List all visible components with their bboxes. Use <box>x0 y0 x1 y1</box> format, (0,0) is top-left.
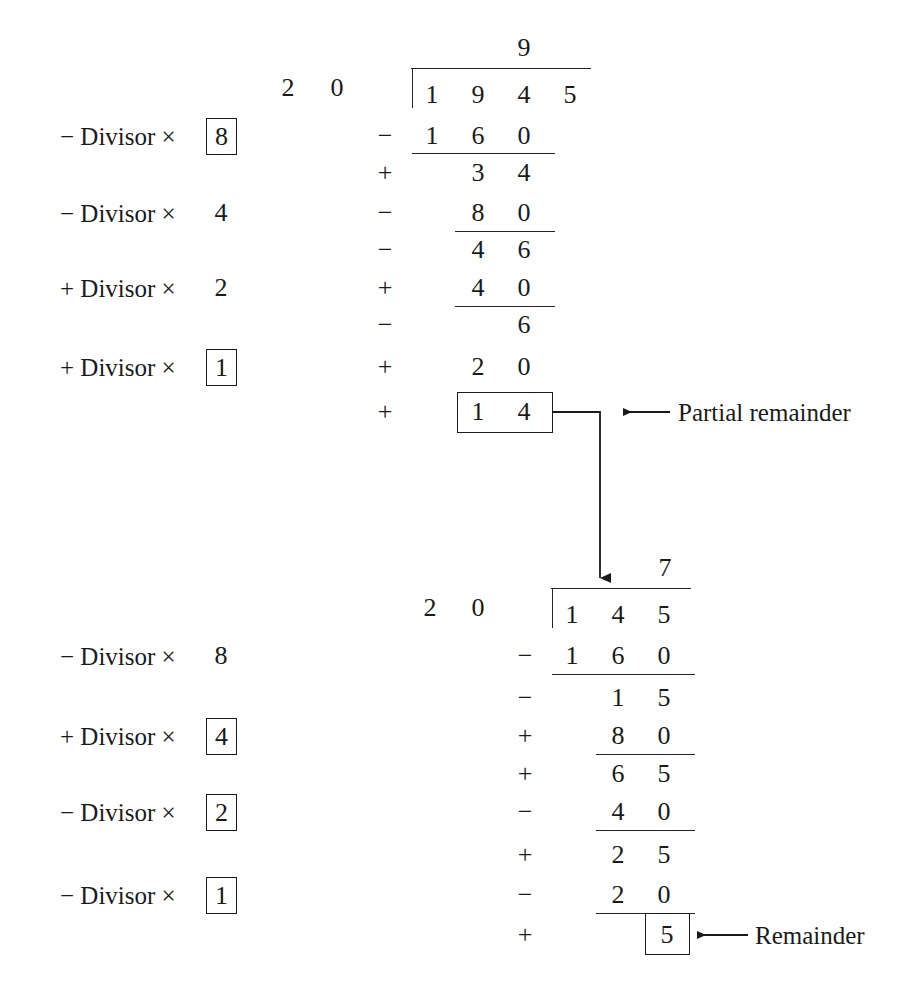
top-label-0-text: Divisor × <box>80 123 175 150</box>
bottom-row-0-sign: − <box>514 643 536 669</box>
bottom-dividend-digit-0: 1 <box>559 602 585 628</box>
bottom-row-2-underline <box>596 754 695 755</box>
top-row-2-digit-2: 0 <box>511 200 537 226</box>
bottom-row-4-sign: − <box>514 799 536 825</box>
top-label-1-sign: − <box>60 200 74 227</box>
top-dividend-digit-0: 1 <box>419 82 445 108</box>
bottom-label-2-multiplier: 2 <box>215 800 228 826</box>
bottom-label-1-multiplier: 4 <box>215 724 228 750</box>
top-row-5-digit-2: 6 <box>511 312 537 338</box>
top-label-0-multiplier: 8 <box>215 124 228 150</box>
top-row-7-digit-1: 1 <box>465 399 491 425</box>
top-row-4-digit-2: 0 <box>511 275 537 301</box>
top-label-3-multiplier-box: 1 <box>206 349 237 386</box>
bottom-row-6-digit-2: 0 <box>651 882 677 908</box>
bottom-divisor-digit-1: 0 <box>465 595 491 621</box>
top-label-2-text: Divisor × <box>80 275 175 302</box>
bottom-label-0-sign: − <box>60 643 74 670</box>
top-label-1: − Divisor × <box>60 201 176 226</box>
top-label-3-sign: + <box>60 354 74 381</box>
bottom-row-0-digit-1: 6 <box>605 643 631 669</box>
bottom-divisor-digit-0: 2 <box>417 595 443 621</box>
bottom-label-3-multiplier: 1 <box>215 883 228 909</box>
bottom-division-bar-vertical <box>552 588 553 628</box>
top-dividend-digit-1: 9 <box>465 82 491 108</box>
top-label-1-text: Divisor × <box>80 200 175 227</box>
top-label-0: − Divisor × <box>60 124 176 149</box>
top-row-4-digit-1: 4 <box>465 275 491 301</box>
bottom-row-1-digit-2: 5 <box>651 685 677 711</box>
bottom-row-1-digit-1: 1 <box>605 685 631 711</box>
bottom-row-1-sign: − <box>514 685 536 711</box>
bottom-row-7-digit-2: 5 <box>654 922 680 948</box>
bottom-label-2: − Divisor × <box>60 800 176 825</box>
bottom-label-2-multiplier-box: 2 <box>206 794 237 831</box>
top-row-1-digit-2: 4 <box>511 160 537 186</box>
top-row-0-sign: − <box>374 123 396 149</box>
top-row-6-sign: + <box>374 354 396 380</box>
bottom-quotient-digit: 7 <box>652 555 678 581</box>
top-row-1-digit-1: 3 <box>465 160 491 186</box>
bottom-row-3-digit-2: 5 <box>651 761 677 787</box>
bottom-label-3-sign: − <box>60 882 74 909</box>
partial-remainder-label: Partial remainder <box>678 400 851 425</box>
top-quotient-digit: 9 <box>511 35 537 61</box>
bottom-label-0: − Divisor × <box>60 644 176 669</box>
top-divisor-digit-0: 2 <box>275 75 301 101</box>
bottom-row-3-digit-1: 6 <box>605 761 631 787</box>
top-row-2-digit-1: 8 <box>465 200 491 226</box>
top-row-3-digit-2: 6 <box>511 237 537 263</box>
top-division-bar-horizontal <box>411 68 591 69</box>
bottom-row-6-sign: − <box>514 882 536 908</box>
top-row-7-digit-2: 4 <box>511 399 537 425</box>
top-divisor-digit-1: 0 <box>324 75 350 101</box>
bottom-row-2-sign: + <box>514 723 536 749</box>
bottom-row-4-digit-1: 4 <box>605 799 631 825</box>
bottom-row-0-digit-0: 1 <box>559 643 585 669</box>
top-label-3-text: Divisor × <box>80 354 175 381</box>
top-label-3: + Divisor × <box>60 355 176 380</box>
top-row-7-sign: + <box>374 399 396 425</box>
bottom-row-3-sign: + <box>514 761 536 787</box>
bottom-label-2-text: Divisor × <box>80 799 175 826</box>
bottom-row-7-sign: + <box>514 922 536 948</box>
top-row-0-digit-0: 1 <box>419 123 445 149</box>
top-label-0-sign: − <box>60 123 74 150</box>
bottom-label-1-multiplier-box: 4 <box>206 718 237 755</box>
bottom-row-5-sign: + <box>514 842 536 868</box>
bottom-label-3: − Divisor × <box>60 883 176 908</box>
top-row-4-underline <box>455 306 555 307</box>
bottom-label-3-text: Divisor × <box>80 882 175 909</box>
top-division-bar-vertical <box>412 68 413 108</box>
top-row-6-digit-2: 0 <box>511 354 537 380</box>
bottom-label-3-multiplier-box: 1 <box>206 877 237 914</box>
top-row-2-sign: − <box>374 200 396 226</box>
bottom-label-1-text: Divisor × <box>80 723 175 750</box>
top-label-2-multiplier: 2 <box>208 275 234 301</box>
top-row-0-digit-2: 0 <box>511 123 537 149</box>
bottom-division-bar-horizontal <box>551 588 691 589</box>
top-label-1-multiplier: 4 <box>208 200 234 226</box>
bottom-row-2-digit-2: 0 <box>651 723 677 749</box>
division-figure: 2 0 9 1 9 4 5 − 1 6 0 + 3 4 − 8 0 − 4 6 … <box>0 0 924 996</box>
bottom-row-0-digit-2: 0 <box>651 643 677 669</box>
bottom-row-4-underline <box>596 830 695 831</box>
top-row-3-sign: − <box>374 237 396 263</box>
top-row-1-sign: + <box>374 160 396 186</box>
top-row-2-underline <box>455 231 555 232</box>
top-dividend-digit-3: 5 <box>557 82 583 108</box>
bottom-row-5-digit-1: 2 <box>605 842 631 868</box>
bottom-row-2-digit-1: 8 <box>605 723 631 749</box>
bottom-row-0-underline <box>552 674 695 675</box>
top-dividend-digit-2: 4 <box>511 82 537 108</box>
bottom-row-4-digit-2: 0 <box>651 799 677 825</box>
bottom-row-5-digit-2: 5 <box>651 842 677 868</box>
top-label-2-sign: + <box>60 275 74 302</box>
bottom-label-0-text: Divisor × <box>80 643 175 670</box>
remainder-label: Remainder <box>755 923 865 948</box>
top-label-3-multiplier: 1 <box>215 355 228 381</box>
top-row-0-underline <box>412 153 555 154</box>
top-row-5-sign: − <box>374 312 396 338</box>
bottom-label-0-multiplier: 8 <box>208 643 234 669</box>
bottom-label-1-sign: + <box>60 723 74 750</box>
